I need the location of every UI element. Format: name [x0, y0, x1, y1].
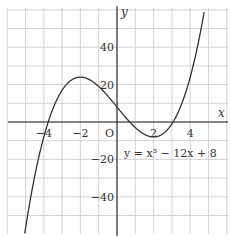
x-axis-label: x: [218, 106, 225, 120]
equation-label: y = x³ − 12x + 8: [123, 147, 217, 160]
x-tick-label: 4: [187, 127, 194, 140]
origin-label: O: [105, 127, 114, 140]
x-tick-labels: −4−224: [36, 127, 194, 140]
x-tick-label: 2: [150, 127, 157, 140]
cubic-curve: [25, 12, 204, 233]
y-axis-label: y: [120, 5, 128, 19]
cubic-graph: x y O −4−224 4020−20−40 y = x³ − 12x + 8: [0, 0, 230, 238]
grid-lines: [7, 8, 228, 234]
x-tick-label: −2: [72, 127, 88, 140]
y-tick-label: 40: [100, 41, 114, 54]
y-tick-label: −20: [91, 153, 114, 166]
y-tick-label: −40: [91, 191, 114, 204]
